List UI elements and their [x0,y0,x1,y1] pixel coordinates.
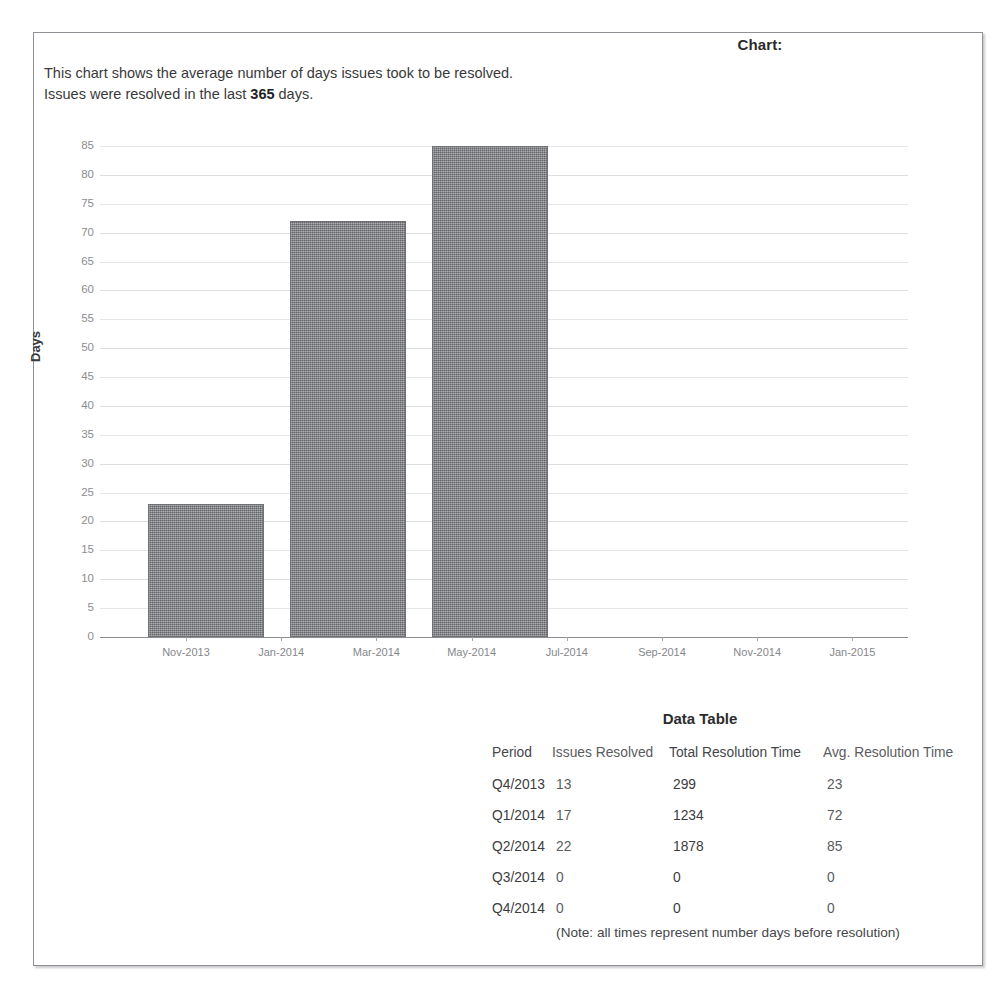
cell-issues: 13 [556,777,571,792]
table-row: Q1/201417123472 [488,808,968,839]
cell-avg: 72 [827,808,842,823]
x-axis-line [100,637,908,638]
x-axis-tick-label: Jan-2015 [802,646,902,658]
table-row: Q3/2014000 [488,870,968,901]
cell-avg: 23 [827,777,842,792]
x-axis-tick-mark [567,637,568,641]
cell-total: 0 [673,870,681,885]
cell-issues: 17 [556,808,571,823]
cell-total: 299 [673,777,696,792]
cell-issues: 22 [556,839,571,854]
bar-Q2-2014[interactable] [432,146,548,637]
data-table-heading: Data Table [600,710,800,727]
y-axis-tick-label: 45 [62,371,94,382]
cell-period: Q1/2014 [492,808,545,823]
x-axis-tick-mark [281,637,282,641]
table-row: Q4/20131329923 [488,777,968,808]
cell-total: 1878 [673,839,704,854]
y-axis-tick-label: 0 [62,631,94,642]
column-header-issues: Issues Resolved [552,745,653,760]
y-axis-tick-label: 30 [62,458,94,469]
cell-total: 1234 [673,808,704,823]
x-axis-tick-mark [757,637,758,641]
x-axis-tick-mark [472,637,473,641]
x-axis-tick-label: May-2014 [422,646,522,658]
table-header-row: PeriodIssues ResolvedTotal Resolution Ti… [488,745,968,777]
y-axis-tick-label: 40 [62,400,94,411]
x-axis-tick-label: Jul-2014 [517,646,617,658]
y-axis-tick-labels: 8580757065605550454035302520151050 [52,0,94,680]
table-row: Q2/201422187885 [488,839,968,870]
y-axis-tick-label: 35 [62,429,94,440]
y-axis-title: Days [28,331,43,362]
x-axis-tick-mark [186,637,187,641]
cell-avg: 0 [827,870,835,885]
x-axis-tick-mark [852,637,853,641]
cell-issues: 0 [556,901,564,916]
y-axis-tick-label: 75 [62,198,94,209]
y-axis-tick-label: 25 [62,487,94,498]
y-axis-tick-label: 20 [62,515,94,526]
x-axis-tick-mark [376,637,377,641]
data-table-note: (Note: all times represent number days b… [488,925,968,940]
bar-Q4-2013[interactable] [148,504,264,637]
y-axis-tick-label: 60 [62,284,94,295]
y-axis-tick-label: 85 [62,140,94,151]
column-header-total: Total Resolution Time [669,745,801,760]
x-axis-tick-label: Sep-2014 [612,646,712,658]
cell-avg: 85 [827,839,842,854]
cell-period: Q4/2014 [492,901,545,916]
y-axis-tick-label: 10 [62,573,94,584]
cell-issues: 0 [556,870,564,885]
resolution-time-bar-chart: Days 8580757065605550454035302520151050 … [0,0,1004,680]
y-axis-tick-label: 70 [62,227,94,238]
cell-period: Q2/2014 [492,839,545,854]
column-header-avg: Avg. Resolution Time [823,745,953,760]
x-axis-tick-label: Jan-2014 [231,646,331,658]
cell-avg: 0 [827,901,835,916]
x-axis-tick-label: Nov-2013 [136,646,236,658]
cell-period: Q3/2014 [492,870,545,885]
y-axis-tick-label: 15 [62,544,94,555]
x-axis-tick-mark [662,637,663,641]
y-axis-tick-label: 5 [62,602,94,613]
y-axis-tick-label: 55 [62,313,94,324]
x-axis-tick-label: Nov-2014 [707,646,807,658]
cell-total: 0 [673,901,681,916]
y-axis-tick-label: 50 [62,342,94,353]
y-axis-tick-label: 80 [62,169,94,180]
bar-Q1-2014[interactable] [290,221,406,637]
data-table: PeriodIssues ResolvedTotal Resolution Ti… [488,745,968,932]
cell-period: Q4/2013 [492,777,545,792]
x-axis-tick-label: Mar-2014 [326,646,426,658]
y-axis-tick-label: 65 [62,256,94,267]
column-header-period: Period [492,745,532,760]
